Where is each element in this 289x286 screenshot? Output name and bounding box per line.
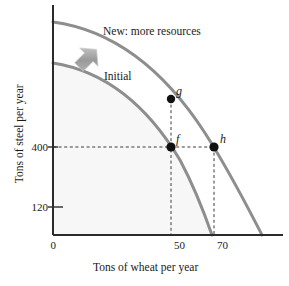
curve-label-initial: Initial [104, 71, 131, 83]
xtick-label-70: 70 [200, 240, 228, 251]
production-possibilities-frontier-chart: Tons of steel per year Tons of wheat per… [0, 0, 289, 286]
point-label-g: g [176, 85, 182, 97]
point-label-f: f [176, 133, 179, 145]
y-axis-title: Tons of steel per year [14, 69, 26, 199]
data-point-h[interactable] [209, 142, 218, 151]
point-label-h: h [220, 133, 226, 145]
ytick-label-120: 120 [10, 202, 48, 213]
data-point-g[interactable] [167, 95, 175, 103]
ytick-label-400: 400 [10, 142, 48, 153]
xtick-label-0: 0 [28, 240, 56, 251]
curve-label-new: New: more resources [103, 26, 201, 38]
data-point-f[interactable] [166, 142, 175, 151]
xtick-label-50: 50 [157, 240, 185, 251]
attainable-region-shading [53, 63, 212, 235]
x-axis-title: Tons of wheat per year [93, 262, 198, 274]
